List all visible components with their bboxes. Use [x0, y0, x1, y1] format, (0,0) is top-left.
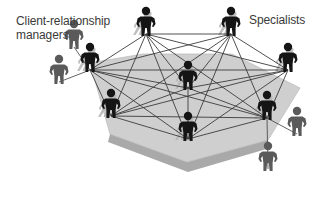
specialist-person-icon — [137, 7, 156, 36]
specialist-person-icon — [279, 43, 298, 72]
team-network-diagram: Client-relationship managers Specialists — [0, 0, 325, 209]
client-relationship-managers-label: Client-relationship managers — [16, 14, 110, 42]
manager-person-icon — [288, 107, 307, 136]
specialists-label: Specialists — [249, 13, 305, 27]
crm-label-line2: managers — [16, 28, 110, 42]
specialist-person-icon — [222, 7, 241, 36]
crm-label-line1: Client-relationship — [16, 14, 110, 28]
